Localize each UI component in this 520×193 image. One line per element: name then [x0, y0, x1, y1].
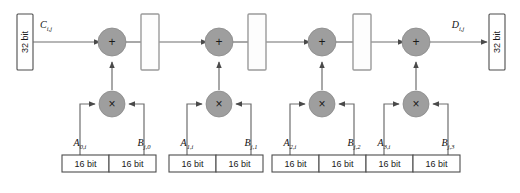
output-port-32bit: 32 bit — [489, 14, 505, 70]
mac-pipeline-diagram: 32 bit Ci,j + × — [0, 0, 520, 193]
signal-label-d: Di,j — [451, 19, 465, 32]
diagram-canvas: 32 bit Ci,j + × — [0, 0, 520, 193]
signal-d-sub: i,j — [459, 25, 464, 32]
operand-a-0-label: A0,i — [73, 137, 87, 150]
operand-a-2-label: A2,i — [283, 137, 297, 150]
operand-a-3-label: A3,i — [377, 137, 391, 150]
adder-0-glyph: + — [108, 35, 115, 49]
adder-2-glyph: + — [318, 35, 325, 49]
pipeline-register-1 — [248, 14, 266, 70]
pipeline-register-0 — [141, 14, 159, 70]
input-port-label: 32 bit — [20, 30, 30, 53]
stage-3: + × A3,i Bj,3 16 bit 16 bit — [366, 28, 460, 172]
operand-b-0-bitlabel: 16 bit — [121, 159, 144, 169]
svg-text:Di,j: Di,j — [451, 19, 465, 32]
operand-a-1-sub: 1,i — [187, 143, 194, 150]
stage-2: + × A2,i Bj,2 16 bit 16 bit — [272, 28, 366, 172]
operand-a-2-sub: 2,i — [290, 143, 297, 150]
operand-b-1-sub: j,1 — [250, 143, 258, 150]
adder-1-glyph: + — [215, 35, 222, 49]
multiplier-2-glyph: × — [318, 97, 325, 111]
operand-a-3-bitlabel: 16 bit — [378, 159, 401, 169]
operand-a-2-bitlabel: 16 bit — [284, 159, 307, 169]
signal-c-sub: i,j — [47, 25, 52, 32]
operand-a-0-sub: 0,i — [80, 143, 87, 150]
operand-b-3-bitlabel: 16 bit — [425, 159, 448, 169]
svg-text:Ci,j: Ci,j — [40, 19, 52, 32]
operand-b-2-bitlabel: 16 bit — [331, 159, 354, 169]
pipeline-register-2 — [353, 14, 371, 70]
multiplier-0-glyph: × — [108, 97, 115, 111]
operand-b-3-sub: j,3 — [447, 143, 455, 150]
output-port-label: 32 bit — [492, 30, 502, 53]
operand-a-1-label: A1,i — [180, 137, 194, 150]
adder-3-glyph: + — [412, 35, 419, 49]
multiplier-1-glyph: × — [215, 97, 222, 111]
operand-b-2-sub: j,2 — [353, 143, 361, 150]
signal-label-c: Ci,j — [40, 19, 52, 32]
operand-b-1-bitlabel: 16 bit — [228, 159, 251, 169]
operand-a-1-bitlabel: 16 bit — [181, 159, 204, 169]
operand-b-0-sub: j,0 — [143, 143, 151, 150]
operand-a-3-sub: 3,i — [383, 143, 391, 150]
multiplier-3-glyph: × — [412, 97, 419, 111]
operand-a-0-bitlabel: 16 bit — [74, 159, 97, 169]
input-port-32bit: 32 bit — [17, 14, 33, 70]
